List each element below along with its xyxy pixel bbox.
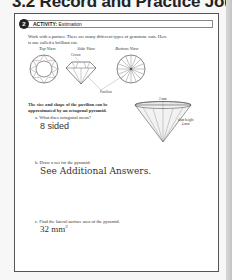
pavilion-description: The size and shape of the pavilion can b… bbox=[28, 102, 108, 113]
pyramid-top-label: 2 mm bbox=[159, 97, 167, 103]
pavilion-line-1: The size and shape of the pavilion can b… bbox=[28, 102, 108, 108]
question-a-text: What does octagonal mean? bbox=[39, 115, 91, 120]
activity-frame: 2 ACTIVITY: Estimation Work with a partn… bbox=[14, 13, 219, 272]
question-b-letter: b. bbox=[35, 160, 38, 165]
slant-height-value: 4 mm bbox=[178, 122, 193, 126]
activity-title: ACTIVITY: Estimation bbox=[33, 21, 82, 27]
activity-label: ACTIVITY: bbox=[33, 21, 57, 27]
question-c-letter: c. bbox=[35, 219, 38, 224]
question-c-answer: 32 mm2 bbox=[40, 224, 68, 234]
question-b-answer: See Additional Answers. bbox=[40, 166, 151, 176]
side-view-label: Side View bbox=[77, 46, 114, 52]
question-b-text: Draw a net for the pyramid. bbox=[40, 160, 91, 165]
question-c-answer-exponent: 2 bbox=[65, 224, 68, 229]
activity-name: Estimation bbox=[58, 21, 81, 27]
question-a-answer: 8 sided bbox=[40, 121, 69, 131]
activity-header: 2 ACTIVITY: Estimation bbox=[20, 20, 213, 28]
bottom-view-label: Bottom View bbox=[115, 46, 138, 52]
page-title: 3.2 Record and Practice Journal bbox=[12, 0, 232, 12]
question-a-prompt: a. What does octagonal mean? bbox=[35, 115, 91, 121]
question-b-prompt: b. Draw a net for the pyramid. bbox=[35, 160, 91, 166]
bottom-view-diagram bbox=[116, 54, 146, 84]
pyramid-slant-label: slant height 4 mm bbox=[178, 118, 193, 126]
activity-number-badge: 2 bbox=[19, 19, 29, 29]
crown-leader-line bbox=[75, 57, 85, 65]
question-a-letter: a. bbox=[35, 115, 38, 120]
page-edge-shadow bbox=[226, 0, 232, 280]
top-view-diagram bbox=[29, 54, 59, 84]
worksheet-page: 3.2 Record and Practice Journal 2 ACTIVI… bbox=[0, 0, 226, 280]
intro-line-2: is one called a brilliant cut. bbox=[28, 40, 167, 46]
intro-line-1: Work with a partner. There are many diff… bbox=[28, 34, 167, 40]
intro-text: Work with a partner. There are many diff… bbox=[28, 34, 167, 45]
question-c-answer-value: 32 mm bbox=[40, 224, 65, 234]
view-labels: Top View Side View Bottom View bbox=[39, 46, 139, 52]
pavilion-line-2: approximated by an octagonal pyramid. bbox=[28, 108, 108, 114]
top-view-label: Top View bbox=[39, 46, 76, 52]
